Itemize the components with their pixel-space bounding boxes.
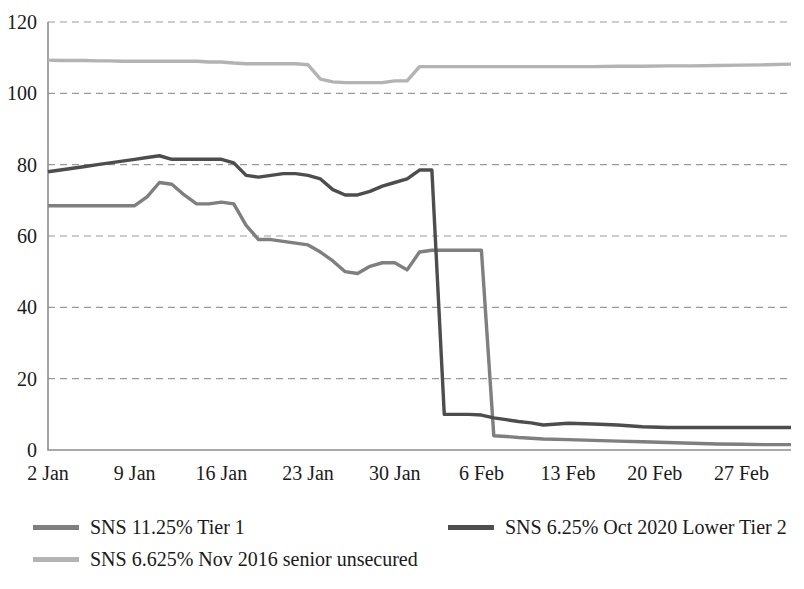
data-series: [48, 60, 791, 444]
legend-label-senior-unsecured: SNS 6.625% Nov 2016 senior unsecured: [90, 548, 418, 570]
legend-swatch-lower-tier-2: [448, 525, 494, 530]
x-tick-label: 9 Jan: [114, 462, 156, 484]
y-tick-label: 20: [17, 368, 37, 390]
legend-item-tier-1[interactable]: SNS 11.25% Tier 1: [0, 511, 440, 543]
x-tick-label: 2 Jan: [27, 462, 69, 484]
legend-label-tier-1: SNS 11.25% Tier 1: [90, 516, 245, 538]
legend-item-senior-unsecured[interactable]: SNS 6.625% Nov 2016 senior unsecured: [0, 543, 440, 575]
gridlines: [48, 22, 791, 379]
y-tick-label: 60: [17, 225, 37, 247]
x-tick-label: 23 Jan: [282, 462, 334, 484]
legend-row-2: SNS 6.625% Nov 2016 senior unsecured: [0, 543, 804, 575]
x-tick-label: 27 Feb: [714, 462, 769, 484]
x-tick-label: 30 Jan: [369, 462, 421, 484]
legend-swatch-tier-1: [33, 525, 79, 530]
chart-plot-area: 020406080100120 2 Jan9 Jan16 Jan23 Jan30…: [0, 0, 804, 500]
x-tick-label: 6 Feb: [459, 462, 504, 484]
legend-label-lower-tier-2: SNS 6.25% Oct 2020 Lower Tier 2: [505, 516, 787, 538]
series-line: [48, 60, 791, 82]
y-tick-label: 80: [17, 154, 37, 176]
x-tick-label: 16 Jan: [196, 462, 248, 484]
y-tick-label: 40: [17, 296, 37, 318]
legend-row-1: SNS 11.25% Tier 1 SNS 6.25% Oct 2020 Low…: [0, 511, 804, 543]
x-tick-label: 13 Feb: [541, 462, 596, 484]
line-chart: 020406080100120 2 Jan9 Jan16 Jan23 Jan30…: [0, 0, 804, 589]
y-tick-label: 0: [27, 439, 37, 461]
chart-legend: SNS 11.25% Tier 1 SNS 6.25% Oct 2020 Low…: [0, 505, 804, 589]
legend-item-lower-tier-2[interactable]: SNS 6.25% Oct 2020 Lower Tier 2: [440, 511, 787, 543]
y-tick-label: 120: [7, 11, 37, 33]
series-line: [48, 183, 791, 445]
y-axis-tick-labels: 020406080100120: [7, 11, 37, 461]
legend-swatch-senior-unsecured: [33, 557, 79, 562]
x-axis-tick-labels: 2 Jan9 Jan16 Jan23 Jan30 Jan6 Feb13 Feb2…: [27, 462, 769, 484]
x-tick-label: 20 Feb: [627, 462, 682, 484]
series-line: [48, 156, 791, 428]
y-tick-label: 100: [7, 82, 37, 104]
